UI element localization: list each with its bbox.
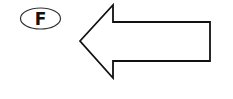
figure-label-badge: F (21, 8, 61, 29)
figure-label: F (35, 9, 47, 29)
left-arrow-icon (80, 5, 210, 78)
diagram-canvas: F (0, 0, 233, 99)
